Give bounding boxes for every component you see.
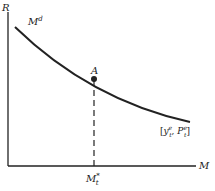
point-label: A	[90, 65, 98, 76]
curve-label: Md	[27, 15, 43, 27]
equilibrium-point	[91, 76, 97, 82]
x-marker-label: M*t	[85, 172, 100, 187]
money-demand-curve	[15, 27, 190, 122]
money-demand-diagram: R M Md A M*t [yet, Pet]	[0, 0, 215, 191]
y-axis-label: R	[1, 2, 10, 13]
x-axis-label: M	[198, 160, 210, 171]
shift-parameters-label: [yet, Pet]	[160, 124, 190, 138]
